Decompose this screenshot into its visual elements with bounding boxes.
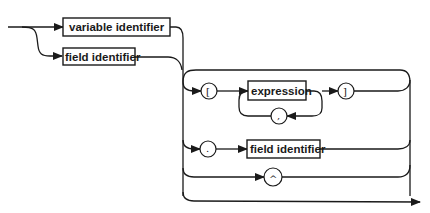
svg-text:^: ^ [269, 173, 277, 184]
svg-text:]: ] [343, 86, 347, 97]
branch-to-field-identifier [22, 27, 62, 56]
svg-text:.: . [206, 143, 209, 154]
exit-arrow [183, 192, 420, 202]
svg-text:variable identifier: variable identifier [69, 21, 165, 33]
variable-to-main [170, 27, 183, 196]
field-identifier-node-2: field identifier [247, 140, 326, 158]
variable-identifier-node: variable identifier [63, 18, 170, 36]
close-bracket-out [354, 80, 410, 91]
expression-node: expression [248, 81, 312, 100]
to-period [183, 140, 200, 149]
svg-text:[: [ [206, 86, 210, 97]
caret-terminal: ^ [264, 168, 282, 186]
to-open-bracket [183, 82, 201, 91]
field-to-main [135, 57, 182, 70]
svg-text:field identifier: field identifier [65, 51, 141, 63]
caret-out [282, 165, 410, 177]
close-bracket-terminal: ] [338, 83, 354, 99]
comma-terminal: , [271, 108, 287, 124]
svg-text:expression: expression [251, 85, 312, 97]
field-identifier-2-out [320, 140, 410, 149]
syntax-diagram: variable identifier field identifier [ e… [0, 0, 430, 213]
to-caret [183, 168, 264, 177]
field-identifier-node-1: field identifier [63, 48, 141, 65]
svg-text:field identifier: field identifier [250, 143, 326, 155]
svg-text:,: , [277, 110, 280, 121]
period-terminal: . [200, 141, 216, 157]
open-bracket-terminal: [ [201, 83, 217, 99]
